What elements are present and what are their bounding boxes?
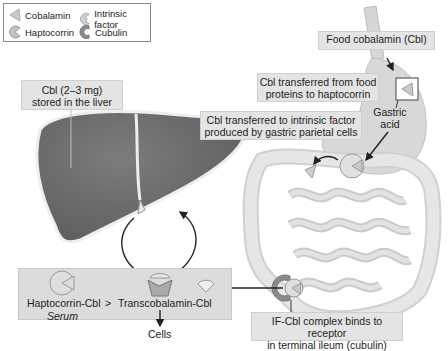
cobalamin-icon: [8, 8, 22, 22]
gastric-acid-line2: acid: [370, 118, 410, 130]
liver-storage-label: Cbl (2–3 mg) stored in the liver: [21, 80, 123, 110]
legend-item-haptocorrin: Haptocorrin: [8, 25, 74, 39]
ileum-binding-line2: in terminal ileum (cubulin): [252, 339, 402, 351]
transfer-haptocorrin-line2: proteins to haptocorrin: [258, 88, 378, 100]
legend-label-cubulin: Cubulin: [95, 27, 127, 38]
transfer-if-line1: Cbl transferred to intrinsic factor: [201, 114, 361, 126]
legend-label-haptocorrin: Haptocorrin: [25, 27, 74, 38]
ileum-binding-label: IF-Cbl complex binds to receptor in term…: [251, 312, 403, 341]
haptocorrin-icon: [8, 25, 22, 39]
legend-item-cubulin: Cubulin: [78, 25, 127, 39]
serum-label: Serum: [47, 310, 78, 322]
liver-storage-line1: Cbl (2–3 mg): [22, 84, 122, 96]
transcobalamin-cbl-icon: [148, 280, 172, 296]
food-cobalamin-label: Food cobalamin (Cbl): [318, 31, 435, 50]
cells-label: Cells: [148, 328, 171, 340]
legend: Cobalamin Intrinsic factor Haptocorrin C…: [3, 3, 151, 42]
haptocorrin-cbl-label: Haptocorrin-Cbl: [27, 297, 101, 309]
greater-than-sign: >: [105, 297, 111, 309]
legend-label-cobalamin: Cobalamin: [25, 10, 70, 21]
transfer-intrinsic-factor-label: Cbl transferred to intrinsic factor prod…: [200, 111, 362, 140]
transcobalamin-cbl-label: Transcobalamin-Cbl: [118, 297, 212, 309]
gastric-acid-line1: Gastric: [370, 106, 410, 118]
transfer-if-line2: produced by gastric parietal cells: [201, 126, 361, 138]
cubulin-icon: [78, 25, 92, 39]
gastric-acid-label: Gastric acid: [370, 106, 410, 130]
transfer-haptocorrin-label: Cbl transferred from food proteins to ha…: [257, 73, 379, 102]
transfer-haptocorrin-line1: Cbl transferred from food: [258, 76, 378, 88]
intrinsic-factor-icon: [78, 12, 91, 26]
ileum-binding-line1: IF-Cbl complex binds to receptor: [252, 315, 402, 339]
liver-storage-line2: stored in the liver: [22, 96, 122, 108]
legend-item-cobalamin: Cobalamin: [8, 8, 70, 22]
